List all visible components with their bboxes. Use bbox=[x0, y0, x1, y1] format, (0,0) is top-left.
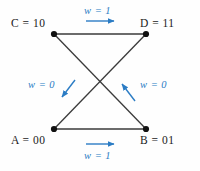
edge-weight-label-right: w = 0 bbox=[140, 79, 167, 90]
state-transition-diagram: C = 10 D = 11 A = 00 B = 01 w = 1 w = 1 … bbox=[0, 0, 200, 171]
node-label-b: B = 01 bbox=[140, 134, 174, 146]
arrow-right-w0 bbox=[122, 84, 135, 101]
node-c-dot[interactable] bbox=[51, 31, 57, 37]
edge-weight-label-top: w = 1 bbox=[84, 5, 111, 16]
arrow-left-w0 bbox=[62, 80, 75, 97]
node-label-a: A = 00 bbox=[11, 134, 45, 146]
node-label-d: D = 11 bbox=[140, 17, 175, 29]
node-b-dot[interactable] bbox=[143, 126, 149, 132]
node-d-dot[interactable] bbox=[143, 31, 149, 37]
node-label-c: C = 10 bbox=[11, 17, 45, 29]
edge-weight-label-bottom: w = 1 bbox=[84, 150, 111, 161]
edge-weight-label-left: w = 0 bbox=[28, 79, 55, 90]
node-a-dot[interactable] bbox=[51, 126, 57, 132]
